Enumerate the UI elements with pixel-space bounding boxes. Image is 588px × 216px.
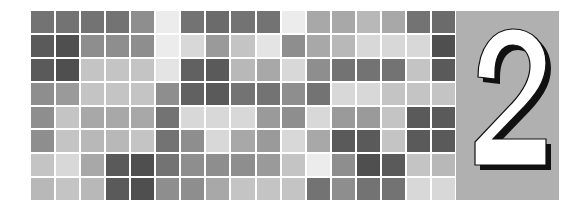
mosaic-cell	[432, 59, 455, 81]
mosaic-cell	[307, 154, 330, 176]
mosaic-cell	[106, 11, 129, 33]
grayscale-mosaic-grid	[31, 11, 455, 200]
mosaic-cell	[407, 83, 430, 105]
mosaic-cell	[282, 35, 305, 57]
mosaic-cell	[257, 83, 280, 105]
mosaic-cell	[56, 107, 79, 129]
mosaic-cell	[332, 35, 355, 57]
mosaic-cell	[282, 107, 305, 129]
mosaic-cell	[282, 59, 305, 81]
mosaic-cell	[282, 130, 305, 152]
mosaic-cell	[332, 130, 355, 152]
mosaic-cell	[56, 11, 79, 33]
mosaic-cell	[231, 35, 254, 57]
mosaic-cell	[432, 83, 455, 105]
mosaic-cell	[31, 11, 54, 33]
mosaic-cell	[332, 11, 355, 33]
mosaic-cell	[231, 59, 254, 81]
mosaic-cell	[181, 130, 204, 152]
mosaic-cell	[56, 35, 79, 57]
mosaic-cell	[206, 83, 229, 105]
mosaic-cell	[257, 107, 280, 129]
mosaic-cell	[357, 83, 380, 105]
mosaic-cell	[206, 154, 229, 176]
mosaic-cell	[257, 59, 280, 81]
chapter-numeral-panel: 2	[456, 11, 559, 200]
mosaic-cell	[56, 83, 79, 105]
mosaic-cell	[282, 178, 305, 200]
mosaic-cell	[231, 107, 254, 129]
mosaic-cell	[106, 83, 129, 105]
mosaic-cell	[307, 11, 330, 33]
mosaic-cell	[131, 83, 154, 105]
mosaic-cell	[56, 59, 79, 81]
mosaic-cell	[407, 11, 430, 33]
mosaic-cell	[131, 35, 154, 57]
mosaic-cell	[131, 107, 154, 129]
mosaic-cell	[407, 59, 430, 81]
mosaic-cell	[307, 59, 330, 81]
mosaic-cell	[181, 83, 204, 105]
mosaic-cell	[332, 107, 355, 129]
mosaic-cell	[131, 178, 154, 200]
mosaic-cell	[106, 35, 129, 57]
mosaic-cell	[206, 35, 229, 57]
mosaic-cell	[432, 154, 455, 176]
mosaic-cell	[181, 154, 204, 176]
mosaic-cell	[81, 178, 104, 200]
mosaic-cell	[307, 83, 330, 105]
mosaic-cell	[206, 178, 229, 200]
mosaic-cell	[206, 11, 229, 33]
mosaic-cell	[131, 154, 154, 176]
mosaic-cell	[56, 178, 79, 200]
mosaic-cell	[332, 154, 355, 176]
mosaic-cell	[156, 130, 179, 152]
mosaic-cell	[31, 130, 54, 152]
mosaic-cell	[131, 130, 154, 152]
mosaic-cell	[282, 11, 305, 33]
mosaic-cell	[206, 59, 229, 81]
mosaic-cell	[81, 107, 104, 129]
mosaic-cell	[106, 59, 129, 81]
mosaic-cell	[357, 35, 380, 57]
mosaic-cell	[181, 35, 204, 57]
mosaic-cell	[31, 178, 54, 200]
mosaic-cell	[181, 11, 204, 33]
mosaic-cell	[56, 154, 79, 176]
mosaic-cell	[81, 130, 104, 152]
mosaic-cell	[332, 178, 355, 200]
mosaic-cell	[407, 130, 430, 152]
mosaic-cell	[156, 107, 179, 129]
chapter-numeral-2-graphic	[456, 11, 559, 200]
mosaic-cell	[181, 178, 204, 200]
mosaic-cell	[432, 178, 455, 200]
mosaic-cell	[407, 107, 430, 129]
mosaic-cell	[282, 83, 305, 105]
mosaic-cell	[382, 178, 405, 200]
mosaic-cell	[181, 107, 204, 129]
mosaic-cell	[231, 154, 254, 176]
mosaic-cell	[156, 178, 179, 200]
mosaic-cell	[81, 35, 104, 57]
mosaic-cell	[156, 83, 179, 105]
mosaic-cell	[382, 83, 405, 105]
mosaic-cell	[382, 35, 405, 57]
mosaic-cell	[382, 130, 405, 152]
mosaic-cell	[106, 178, 129, 200]
mosaic-cell	[357, 11, 380, 33]
mosaic-cell	[231, 178, 254, 200]
mosaic-cell	[407, 178, 430, 200]
mosaic-cell	[357, 107, 380, 129]
mosaic-cell	[382, 59, 405, 81]
mosaic-cell	[206, 130, 229, 152]
mosaic-cell	[156, 11, 179, 33]
mosaic-cell	[282, 154, 305, 176]
mosaic-cell	[432, 130, 455, 152]
mosaic-cell	[106, 130, 129, 152]
mosaic-cell	[31, 35, 54, 57]
mosaic-cell	[156, 154, 179, 176]
mosaic-cell	[357, 154, 380, 176]
chapter-opener-banner: 2	[0, 0, 588, 216]
mosaic-cell	[106, 154, 129, 176]
mosaic-cell	[382, 154, 405, 176]
